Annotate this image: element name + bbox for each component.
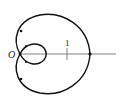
direction-marker-top [20, 30, 23, 33]
curve-point-theta-0 [88, 52, 91, 55]
inner-marker-bottom [25, 61, 27, 63]
origin-point [19, 53, 22, 56]
tick-label: 1 [65, 38, 70, 48]
inner-marker-top [25, 45, 27, 47]
polar-diagram: 1 O [0, 0, 122, 105]
direction-marker-bottom [20, 78, 23, 81]
origin-label: O [8, 49, 15, 60]
